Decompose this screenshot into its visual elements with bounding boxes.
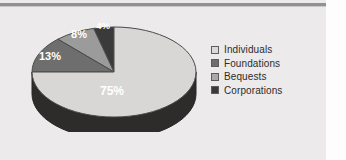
legend-swatch-individuals [211,46,219,54]
legend-item-bequests[interactable]: Bequests [211,70,311,84]
legend-label-bequests: Bequests [224,71,267,82]
slice-label-corporations: 4% [96,20,110,31]
legend-swatch-corporations [211,86,219,94]
pie-chart-svg: 75%13%8%4% [26,14,202,132]
slice-label-individuals: 75% [100,84,124,98]
pie-slices [32,27,196,117]
legend-swatch-bequests [211,73,219,81]
legend-item-corporations[interactable]: Corporations [211,84,311,98]
legend-label-corporations: Corporations [224,85,282,96]
legend-swatch-foundations [211,59,219,67]
slice-label-bequests: 8% [71,28,87,40]
legend-label-foundations: Foundations [224,58,280,69]
legend-label-individuals: Individuals [224,44,272,55]
page-right-margin [326,0,346,160]
slice-label-foundations: 13% [39,50,61,62]
top-divider-shadow [0,6,326,7]
chart-legend: Individuals Foundations Bequests Corpora… [211,43,311,97]
chart-canvas: 75%13%8%4% Individuals Foundations Beque… [0,0,346,160]
pie-chart: 75%13%8%4% [26,14,202,132]
legend-item-foundations[interactable]: Foundations [211,57,311,71]
legend-item-individuals[interactable]: Individuals [211,43,311,57]
